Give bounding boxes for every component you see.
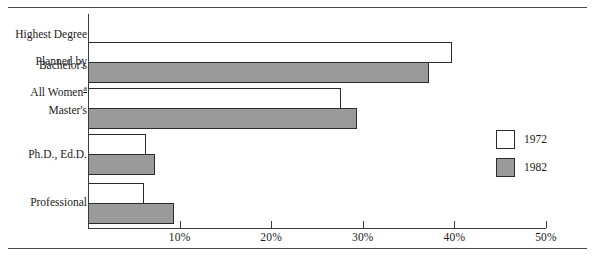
category-label-masters: Master's bbox=[49, 104, 87, 118]
x-axis-tick-label-30: 30% bbox=[352, 231, 374, 243]
y-axis-line bbox=[88, 14, 89, 228]
category-label-phd: Ph.D., Ed.D. bbox=[28, 148, 87, 162]
x-axis-tick-40 bbox=[454, 221, 455, 228]
x-axis-tick-20 bbox=[271, 221, 272, 228]
y-axis-title-line1: Highest Degree bbox=[15, 28, 87, 40]
x-axis-tick-label-20: 20% bbox=[260, 231, 282, 243]
bar-bachelors-1972 bbox=[88, 42, 452, 63]
bar-professional-1972 bbox=[88, 183, 144, 204]
x-axis-line bbox=[88, 228, 546, 229]
bar-phd-1982 bbox=[88, 154, 155, 175]
figure-container: Highest Degree Planned by All Womena Bac… bbox=[0, 0, 595, 260]
x-axis-tick-30 bbox=[363, 221, 364, 228]
bar-masters-1972 bbox=[88, 88, 341, 109]
legend-swatch-1982 bbox=[496, 158, 515, 177]
legend: 1972 1982 bbox=[496, 128, 547, 184]
x-axis-tick-label-10: 10% bbox=[169, 231, 191, 243]
category-label-professional: Professional bbox=[30, 196, 87, 210]
category-label-bachelors: Bachelor's bbox=[39, 59, 87, 73]
legend-swatch-1972 bbox=[496, 130, 515, 149]
legend-label-1972: 1972 bbox=[524, 133, 547, 145]
y-axis-title-line3: All Women bbox=[30, 85, 83, 97]
y-axis-title: Highest Degree Planned by All Womena bbox=[15, 14, 87, 99]
x-axis-tick-50 bbox=[546, 221, 547, 228]
x-axis-tick-label-40: 40% bbox=[444, 231, 466, 243]
x-axis-tick-10 bbox=[180, 221, 181, 228]
legend-item-1972[interactable]: 1972 bbox=[496, 128, 547, 150]
bar-bachelors-1982 bbox=[88, 62, 429, 83]
x-axis-tick-label-50: 50% bbox=[535, 231, 557, 243]
y-axis-title-footnote: a bbox=[83, 83, 87, 93]
legend-label-1982: 1982 bbox=[524, 161, 547, 173]
bar-phd-1972 bbox=[88, 134, 146, 155]
legend-item-1982[interactable]: 1982 bbox=[496, 156, 547, 178]
bar-masters-1982 bbox=[88, 108, 357, 129]
bar-professional-1982 bbox=[88, 203, 174, 224]
